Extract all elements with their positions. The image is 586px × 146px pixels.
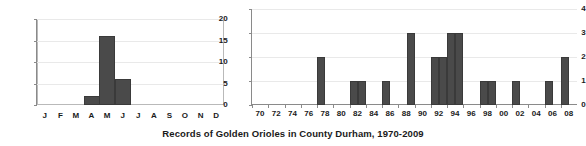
gridline <box>252 9 577 10</box>
x-tick-mark <box>398 105 399 108</box>
y-tick-mark <box>34 105 37 106</box>
x-tick-mark <box>268 105 269 108</box>
plot-area-annual <box>252 9 577 105</box>
x-tick-mark <box>528 105 529 108</box>
bar <box>447 33 455 105</box>
x-tick-mark <box>431 105 432 108</box>
x-tick-mark <box>545 105 546 108</box>
x-tick-mark <box>285 105 286 108</box>
bar <box>407 33 415 105</box>
bar <box>431 57 439 105</box>
bar <box>317 57 325 105</box>
bar <box>545 81 553 105</box>
bar <box>512 81 520 105</box>
figure-title: Records of Golden Orioles in County Durh… <box>0 128 586 139</box>
bar <box>115 79 131 105</box>
x-tick-mark <box>463 105 464 108</box>
y-tick-label: 4 <box>567 5 586 13</box>
x-tick-mark <box>561 105 562 108</box>
figure-container: 05101520 JFMAMJJASOND 01234 707274767880… <box>0 0 586 146</box>
x-tick-label: D <box>204 112 228 120</box>
bar <box>382 81 390 105</box>
bar <box>455 33 463 105</box>
x-tick-label: 08 <box>557 110 581 118</box>
y-axis-line <box>36 19 37 105</box>
y-tick-label: 0 <box>196 101 228 109</box>
y-tick-label: 20 <box>196 15 228 23</box>
y-axis-line <box>251 9 252 105</box>
y-tick-label: 0 <box>567 101 586 109</box>
x-tick-mark <box>382 105 383 108</box>
bar <box>358 81 366 105</box>
bar <box>84 96 100 105</box>
x-tick-mark <box>350 105 351 108</box>
x-tick-mark <box>301 105 302 108</box>
bar <box>439 57 447 105</box>
x-tick-mark <box>317 105 318 108</box>
y-tick-label: 3 <box>567 29 586 37</box>
x-tick-mark <box>333 105 334 108</box>
y-tick-label: 15 <box>196 37 228 45</box>
chart-annual-records: 01234 7072747678808284868890929496980002… <box>228 0 586 128</box>
x-tick-mark <box>512 105 513 108</box>
y-tick-label: 10 <box>196 58 228 66</box>
y-tick-label: 2 <box>567 53 586 61</box>
x-tick-mark <box>447 105 448 108</box>
x-tick-mark <box>480 105 481 108</box>
bar <box>488 81 496 105</box>
x-tick-mark <box>366 105 367 108</box>
x-tick-mark <box>496 105 497 108</box>
y-tick-label: 1 <box>567 77 586 85</box>
bar <box>350 81 358 105</box>
x-tick-mark <box>415 105 416 108</box>
x-tick-mark <box>252 105 253 108</box>
y-tick-label: 5 <box>196 80 228 88</box>
chart-monthly-records: 05101520 JFMAMJJASOND <box>0 0 228 128</box>
bar <box>480 81 488 105</box>
bar <box>99 36 115 105</box>
